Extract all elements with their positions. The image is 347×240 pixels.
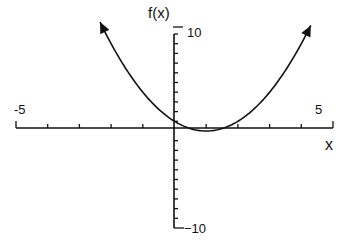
parabola-curve (100, 22, 311, 131)
curve-path (100, 22, 311, 131)
x-max-tick-label: 5 (315, 103, 322, 116)
function-graph: f(x) 10 −10 -5 5 x (0, 0, 347, 240)
plot-area (0, 0, 347, 240)
y-axis-label: f(x) (148, 5, 170, 20)
y-min-tick-label: −10 (184, 222, 206, 235)
x-axis-label: x (325, 137, 333, 153)
x-min-tick-label: -5 (14, 103, 26, 116)
axes (16, 27, 333, 228)
y-max-tick-label: 10 (187, 26, 201, 39)
